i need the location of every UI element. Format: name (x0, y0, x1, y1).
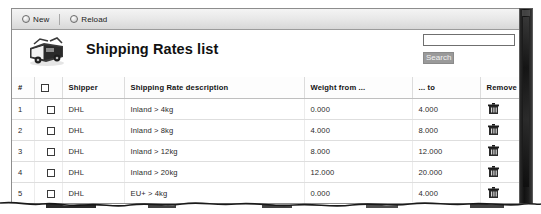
search-button[interactable]: Search (423, 52, 454, 64)
cell-shipper: DHL (62, 120, 124, 141)
cell-weight-to: 8.000 (412, 120, 480, 141)
delete-icon[interactable] (487, 124, 500, 136)
table-row[interactable]: 5 DHL EU+ > 4kg 0.000 4.000 (12, 183, 527, 204)
column-header-weight-to[interactable]: ... to (412, 77, 480, 99)
cell-shipper: DHL (62, 141, 124, 162)
column-header-description[interactable]: Shipping Rate description (124, 77, 304, 99)
cell-weight-from: 0.000 (304, 183, 412, 204)
delete-icon[interactable] (487, 187, 500, 199)
table-row[interactable]: 2 DHL Inland > 8kg 4.000 8.000 (12, 120, 527, 141)
cell-weight-from: 0.000 (304, 99, 412, 120)
cell-weight-to: 4.000 (412, 99, 480, 120)
table-row[interactable]: 3 DHL Inland > 12kg 8.000 12.000 (12, 141, 527, 162)
search-input[interactable] (423, 34, 515, 46)
page-title: Shipping Rates list (86, 41, 218, 57)
cell-description: Inland > 8kg (124, 120, 304, 141)
new-button-label: New (33, 15, 49, 24)
select-all-checkbox[interactable] (41, 84, 49, 92)
row-select-cell (34, 99, 62, 120)
row-checkbox[interactable] (47, 169, 55, 177)
circle-plus-icon (22, 15, 30, 23)
row-number: 2 (12, 120, 34, 141)
row-number: 4 (12, 162, 34, 183)
column-header-select-all (34, 77, 62, 99)
row-select-cell (34, 120, 62, 141)
table-row[interactable]: 1 DHL Inland > 4kg 0.000 4.000 (12, 99, 527, 120)
row-checkbox[interactable] (47, 106, 55, 114)
delete-icon[interactable] (487, 103, 500, 115)
toolbar: New Reload (12, 9, 527, 30)
delete-icon[interactable] (487, 166, 500, 178)
search-area: Search (423, 34, 523, 64)
delete-icon[interactable] (487, 145, 500, 157)
reload-button-label: Reload (81, 15, 107, 24)
cell-description: EU+ > 4kg (124, 183, 304, 204)
row-select-cell (34, 183, 62, 204)
table-body: 1 DHL Inland > 4kg 0.000 4.000 (12, 99, 527, 204)
screenshot-root: New Reload (0, 0, 541, 214)
row-checkbox[interactable] (47, 148, 55, 156)
row-checkbox[interactable] (47, 190, 55, 198)
shipping-rates-table: # Shipper Shipping Rate description Weig… (12, 77, 527, 203)
column-header-number[interactable]: # (12, 77, 34, 99)
cell-shipper: DHL (62, 183, 124, 204)
column-header-shipper[interactable]: Shipper (62, 77, 124, 99)
new-button[interactable]: New (18, 14, 53, 25)
cell-description: Inland > 12kg (124, 141, 304, 162)
table-header-row: # Shipper Shipping Rate description Weig… (12, 77, 527, 99)
cell-description: Inland > 20kg (124, 162, 304, 183)
cell-weight-from: 4.000 (304, 120, 412, 141)
circle-refresh-icon (70, 15, 78, 23)
package-delivery-icon (24, 36, 70, 68)
page-header: Shipping Rates list Search (12, 30, 527, 78)
rates-table-container: # Shipper Shipping Rate description Weig… (12, 77, 527, 203)
scroll-up-arrow-icon[interactable] (522, 10, 530, 16)
cell-shipper: DHL (62, 99, 124, 120)
table-row[interactable]: 4 DHL Inland > 20kg 12.000 20.000 (12, 162, 527, 183)
cell-weight-to: 4.000 (412, 183, 480, 204)
column-header-weight-from[interactable]: Weight from ... (304, 77, 412, 99)
row-number: 5 (12, 183, 34, 204)
vertical-scrollbar[interactable] (519, 8, 533, 204)
reload-button[interactable]: Reload (66, 14, 111, 25)
application-window: New Reload (11, 8, 527, 204)
cell-shipper: DHL (62, 162, 124, 183)
row-checkbox[interactable] (47, 127, 55, 135)
cell-weight-to: 12.000 (412, 141, 480, 162)
row-number: 3 (12, 141, 34, 162)
row-select-cell (34, 162, 62, 183)
row-number: 1 (12, 99, 34, 120)
cell-description: Inland > 4kg (124, 99, 304, 120)
row-select-cell (34, 141, 62, 162)
cell-weight-from: 8.000 (304, 141, 412, 162)
toolbar-separator (59, 14, 60, 25)
cell-weight-from: 12.000 (304, 162, 412, 183)
cell-weight-to: 20.000 (412, 162, 480, 183)
